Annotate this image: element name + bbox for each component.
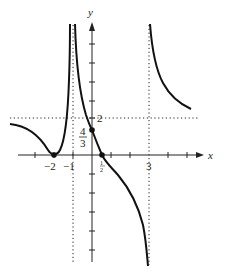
tick-label-3: 3: [146, 160, 152, 172]
x-axis-arrow-icon: [196, 152, 204, 158]
curve-right-branch: [150, 24, 191, 109]
point-min-neg2: [51, 152, 57, 158]
tick-label-half-denominator: 2: [100, 167, 103, 173]
label-four-thirds-numerator: 4: [80, 125, 86, 137]
curve-middle-branch: [75, 24, 148, 266]
tick-label-neg1: −1: [63, 160, 75, 172]
curve-left-branch: [10, 24, 70, 154]
label-four-thirds-denominator: 3: [80, 137, 86, 149]
label-asymptote-2: 2: [97, 112, 103, 124]
tick-label-half-numerator: 1: [100, 160, 103, 166]
x-axis-label: x: [207, 149, 213, 161]
point-y-intercept: [89, 127, 95, 133]
y-axis-label: y: [87, 6, 93, 18]
point-x-intercept-half: [99, 152, 105, 158]
function-graph: y x −2 −1 1 2 3 2 4 3: [0, 0, 227, 279]
y-axis-arrow-icon: [89, 22, 95, 31]
tick-label-neg2: −2: [44, 160, 56, 172]
